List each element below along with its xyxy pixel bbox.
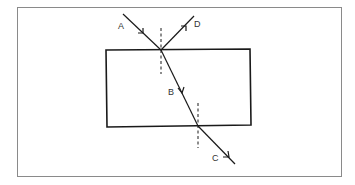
refraction-diagram [0,0,355,185]
label-b: B [168,88,174,97]
label-a: A [118,22,124,31]
label-c: C [212,154,219,163]
reflected-ray-d [161,16,194,50]
refracted-ray-b [161,50,198,126]
figure-frame [18,8,342,177]
label-d: D [194,20,201,29]
incident-ray-a [123,14,161,50]
